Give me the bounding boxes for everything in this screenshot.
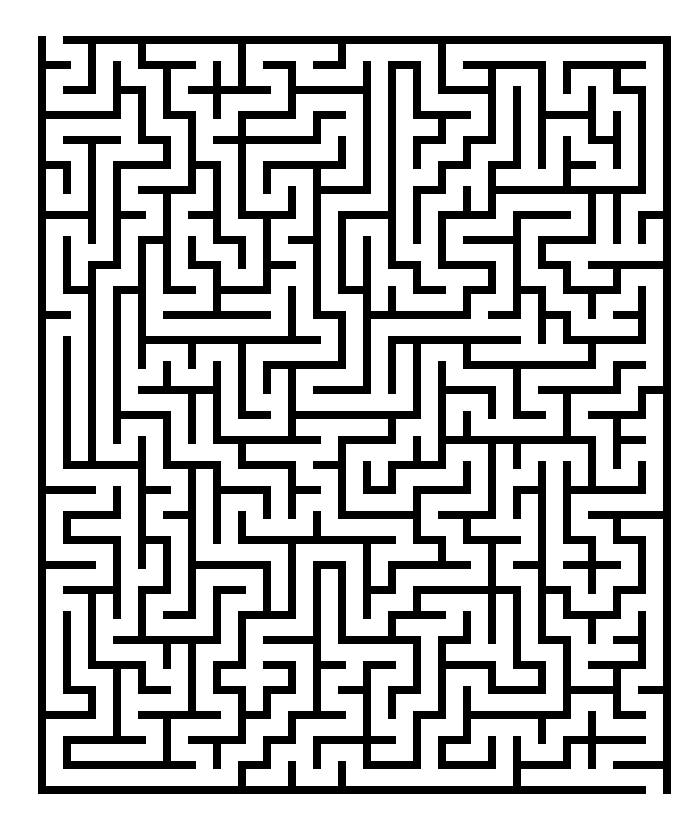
maze-graphic: [38, 36, 671, 794]
maze-canvas: [38, 36, 671, 794]
maze-figure: Maze: [0, 0, 695, 815]
page-root: Maze: [0, 0, 695, 815]
